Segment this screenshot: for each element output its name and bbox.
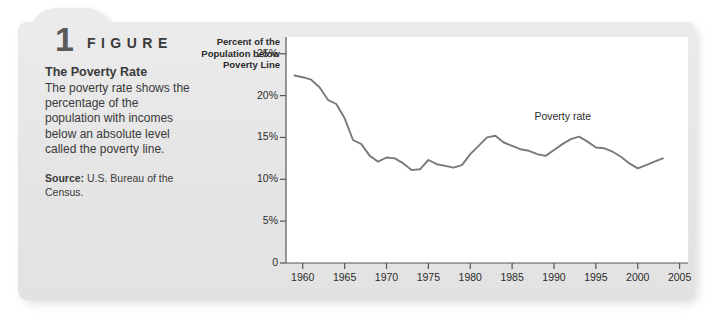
y-tick-label: 10% bbox=[232, 172, 278, 184]
x-tick-label: 1980 bbox=[450, 271, 490, 283]
figure-caption: The Poverty Rate The poverty rate shows … bbox=[45, 64, 197, 210]
x-tick-label: 1985 bbox=[492, 271, 532, 283]
x-tick-label: 1965 bbox=[325, 271, 365, 283]
caption-source: Source: U.S. Bureau of the Census. bbox=[45, 171, 197, 199]
series-label: Poverty rate bbox=[534, 110, 591, 122]
figure-screenshot: 1 FIGURE The Poverty Rate The poverty ra… bbox=[0, 0, 725, 323]
x-tick-label: 1990 bbox=[534, 271, 574, 283]
y-tick-label: 0 bbox=[232, 256, 278, 268]
y-tick-label: 25% bbox=[232, 47, 278, 59]
caption-title: The Poverty Rate bbox=[45, 64, 197, 80]
source-label: Source: bbox=[45, 172, 84, 184]
x-tick-label: 2000 bbox=[618, 271, 658, 283]
y-tick-label: 15% bbox=[232, 130, 278, 142]
x-tick-label: 1975 bbox=[408, 271, 448, 283]
figure-header: 1 FIGURE bbox=[55, 24, 173, 54]
y-tick-label: 20% bbox=[232, 89, 278, 101]
caption-body: The poverty rate shows the percentage of… bbox=[45, 81, 197, 157]
x-tick-label: 1960 bbox=[283, 271, 323, 283]
figure-word: FIGURE bbox=[87, 35, 173, 54]
x-tick-label: 2005 bbox=[660, 271, 700, 283]
figure-number: 1 bbox=[55, 24, 73, 54]
x-tick-label: 1995 bbox=[576, 271, 616, 283]
plot-area bbox=[286, 37, 688, 263]
x-tick-label: 1970 bbox=[367, 271, 407, 283]
y-tick-label: 5% bbox=[232, 214, 278, 226]
